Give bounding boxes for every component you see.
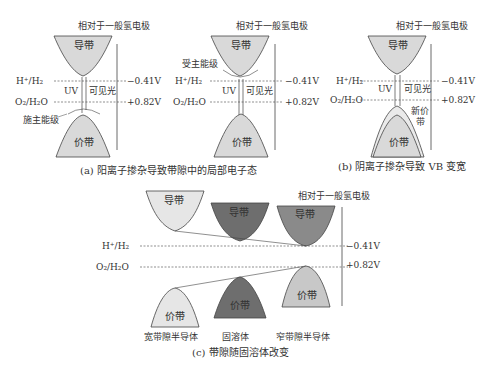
visible-label: 可见光 [89, 85, 116, 96]
o-potential: +0.82V [346, 260, 381, 270]
wide-gap-name: 宽带隙半导体 [144, 331, 198, 342]
h-label: H⁺/H₂ [336, 76, 363, 86]
donor-level-label: 施主能级 [23, 114, 59, 125]
narrow-gap-vb-label: 价带 [297, 290, 317, 301]
visible-label: 可见光 [246, 85, 273, 96]
reference-label: 相对于一般氢电极 [78, 20, 150, 31]
solid-solution-vb-label: 价带 [230, 300, 250, 311]
wide-gap-cb-label: 导带 [164, 195, 184, 206]
o-label: O₂/H₂O [15, 97, 48, 107]
uv-label: UV [222, 86, 237, 96]
panel-b: 相对于一般氢电极 导带 H⁺/H₂ O₂/H₂O −0.41V +0.82V U… [330, 20, 476, 157]
conduction-band-label: 导带 [388, 40, 408, 51]
panel-a-acceptor: 相对于一般氢电极 导带 H⁺/H₂ O₂/H₂O −0.41V +0.82V 受… [173, 20, 320, 157]
band-diagram: 相对于一般氢电极 导带 H⁺/H₂ O₂/H₂O −0.41V +0.82V U… [0, 0, 485, 373]
solid-solution-cb-label: 导带 [229, 207, 249, 218]
h-label: H⁺/H₂ [175, 76, 202, 86]
valence-band-shape [56, 115, 110, 157]
visible-label: 可见光 [404, 83, 431, 94]
conduction-band-label: 导带 [74, 40, 94, 51]
o-potential: +0.82V [441, 95, 476, 105]
uv-label: UV [378, 84, 393, 94]
h-potential: −0.41V [346, 241, 381, 251]
valence-band-label: 价带 [232, 137, 252, 148]
wide-gap-vb-label: 价带 [165, 311, 185, 322]
o-label: O₂/H₂O [96, 262, 129, 272]
new-vb-label-1: 新价 [411, 105, 429, 116]
donor-level-arc [68, 109, 100, 114]
new-vb-label-2: 带 [416, 117, 425, 127]
panel-c: 相对于一般氢电极 导带 导带 导带 H⁺/H₂ O₂/H₂O −0.41V +0… [96, 190, 381, 342]
conduction-band-label: 导带 [231, 40, 251, 51]
valence-band-label: 价带 [389, 137, 409, 148]
solid-solution-name: 固溶体 [222, 331, 249, 342]
valence-band-shape [214, 114, 268, 157]
h-label: H⁺/H₂ [16, 76, 43, 86]
o-potential: +0.82V [285, 97, 320, 107]
solid-solution-vb [214, 277, 266, 318]
h-potential: −0.41V [285, 76, 320, 86]
reference-label: 相对于一般氢电极 [236, 20, 308, 31]
o-label: O₂/H₂O [173, 97, 206, 107]
narrow-gap-cb-label: 导带 [295, 209, 315, 220]
h-potential: −0.41V [127, 76, 162, 86]
acceptor-level-label: 受主能级 [182, 58, 218, 69]
caption-c: (c) 带隙随固溶体改变 [192, 346, 289, 358]
o-label: O₂/H₂O [330, 95, 363, 105]
o-potential: +0.82V [127, 97, 162, 107]
uv-label: UV [64, 86, 79, 96]
caption-b: (b) 阴离子掺杂导致 VB 变宽 [338, 160, 466, 172]
h-label: H⁺/H₂ [102, 241, 129, 251]
narrow-gap-name: 窄带隙半导体 [276, 331, 330, 342]
valence-band-label: 价带 [74, 137, 94, 148]
h-potential: −0.41V [441, 76, 476, 86]
donor-level-pointer [58, 114, 67, 117]
panel-a: 相对于一般氢电极 导带 H⁺/H₂ O₂/H₂O −0.41V +0.82V U… [15, 20, 162, 157]
reference-label: 相对于一般氢电极 [396, 20, 468, 31]
caption-a: (a) 阳离子掺杂导致带隙中的局部电子态 [80, 164, 257, 176]
reference-label: 相对于一般氢电极 [298, 190, 370, 201]
